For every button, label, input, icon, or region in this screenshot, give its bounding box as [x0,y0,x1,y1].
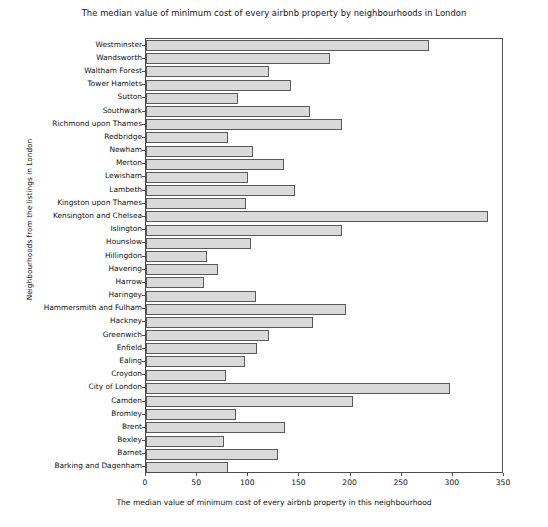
bar [146,106,310,117]
x-axis-tick-label: 350 [496,478,511,487]
bar-row [146,251,502,262]
bar [146,396,353,407]
y-axis-tick-mark [142,387,145,388]
y-axis-tick-label: Westminster [22,41,142,49]
y-axis-tick-label: Hackney [22,317,142,325]
y-axis-label: Neighbourhoods from the listings in Lond… [25,95,34,345]
bar-row [146,159,502,170]
y-axis-tick-label: Bexley [22,436,142,444]
y-axis-tick-label: Barnet [22,449,142,457]
bar [146,409,236,420]
bar-row [146,172,502,183]
y-axis-tick-mark [142,256,145,257]
bar-row [146,80,502,91]
bar-row [146,436,502,447]
x-axis-tick-mark [452,473,453,476]
bar [146,436,224,447]
bar-row [146,106,502,117]
bar-row [146,396,502,407]
bar [146,291,256,302]
bar [146,66,269,77]
bar [146,119,342,130]
y-axis-tick-label: Ealing [22,357,142,365]
y-axis-tick-mark [142,84,145,85]
x-axis-tick-label: 100 [240,478,255,487]
x-axis-tick-label: 300 [445,478,460,487]
y-axis-tick-label: Haringey [22,291,142,299]
y-axis-tick-mark [142,374,145,375]
y-axis-tick-mark [142,361,145,362]
bar-row [146,462,502,473]
y-axis-tick-mark [142,111,145,112]
y-axis-tick-mark [142,45,145,46]
x-axis-tick-label: 150 [291,478,306,487]
bar [146,93,238,104]
y-axis-tick-label: Southwark [22,107,142,115]
bar-row [146,409,502,420]
y-axis-tick-label: Hillingdon [22,252,142,260]
x-axis-tick-mark [196,473,197,476]
y-axis-tick-label: Enfield [22,344,142,352]
bar-row [146,185,502,196]
y-axis-tick-label: Merton [22,159,142,167]
bar [146,238,251,249]
bar [146,462,228,473]
bar [146,383,450,394]
y-axis-tick-mark [142,203,145,204]
x-axis-tick-mark [503,473,504,476]
x-axis-tick-mark [298,473,299,476]
bar-row [146,40,502,51]
x-axis-tick-mark [247,473,248,476]
y-axis-tick-label: Greenwich [22,331,142,339]
bar [146,40,429,51]
bar [146,330,269,341]
bar [146,343,257,354]
y-axis-tick-mark [142,414,145,415]
y-axis-tick-mark [142,124,145,125]
y-axis-tick-label: Bromley [22,410,142,418]
y-axis-tick-label: Wandsworth [22,54,142,62]
bar [146,80,291,91]
bar-row [146,317,502,328]
bar-row [146,291,502,302]
y-axis-tick-labels: WestminsterWandsworthWaltham ForestTower… [18,38,142,473]
y-axis-tick-mark [142,163,145,164]
y-axis-tick-label: Kingston upon Thames [22,199,142,207]
y-axis-tick-label: Newham [22,146,142,154]
bar [146,449,278,460]
y-axis-tick-mark [142,242,145,243]
bar-row [146,304,502,315]
y-axis-tick-label: Lewisham [22,172,142,180]
x-axis-tick-label: 50 [191,478,201,487]
y-axis-tick-mark [142,176,145,177]
y-axis-tick-mark [142,348,145,349]
y-axis-tick-mark [142,453,145,454]
y-axis-tick-label: Richmond upon Thames [22,120,142,128]
plot-area [145,38,503,473]
y-axis-tick-mark [142,295,145,296]
y-axis-tick-mark [142,269,145,270]
bar [146,356,245,367]
y-axis-tick-label: Camden [22,397,142,405]
bar-row [146,93,502,104]
bar-row [146,225,502,236]
y-axis-tick-label: Hammersmith and Fulham [22,304,142,312]
y-axis-tick-label: Brent [22,423,142,431]
bar-row [146,449,502,460]
y-axis-tick-label: Lambeth [22,186,142,194]
y-axis-tick-mark [142,282,145,283]
y-axis-tick-mark [142,97,145,98]
y-axis-tick-label: Kensington and Chelsea [22,212,142,220]
bar-row [146,343,502,354]
y-axis-tick-label: Islington [22,225,142,233]
bar-row [146,370,502,381]
bar-row [146,238,502,249]
bar-row [146,146,502,157]
bar [146,211,488,222]
bar-row [146,383,502,394]
y-axis-tick-mark [142,137,145,138]
y-axis-tick-mark [142,466,145,467]
y-axis-tick-mark [142,321,145,322]
bar [146,370,226,381]
bar [146,251,207,262]
